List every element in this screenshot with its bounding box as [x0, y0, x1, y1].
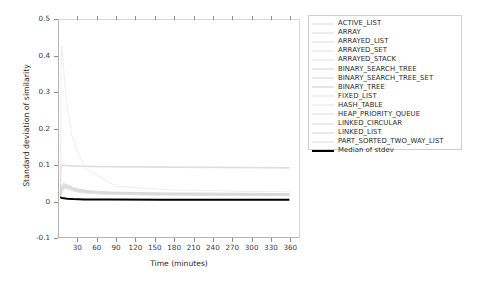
legend-line-swatch — [312, 65, 334, 74]
legend-item[interactable]: ACTIVE_LIST — [309, 19, 461, 28]
y-tick-label: 0.1 — [22, 161, 50, 169]
legend-item[interactable]: PART_SORTED_TWO_WAY_LIST — [309, 137, 461, 146]
legend-line-swatch — [312, 101, 334, 110]
legend-item[interactable]: BINARY_SEARCH_TREE_SET — [309, 74, 461, 83]
y-tick-label: 0 — [22, 198, 50, 206]
x-tick-mark — [77, 238, 78, 242]
legend-item[interactable]: Median of stdev — [309, 146, 461, 155]
series-line — [60, 198, 289, 200]
x-tick-mark — [252, 238, 253, 242]
x-tick-mark-top — [116, 16, 117, 20]
x-tick-mark-top — [77, 16, 78, 20]
legend-item[interactable]: BINARY_SEARCH_TREE — [309, 64, 461, 73]
legend-line-swatch — [312, 19, 334, 28]
y-tick-mark — [54, 238, 58, 239]
legend-item[interactable]: FIXED_LIST — [309, 92, 461, 101]
x-tick-mark-top — [290, 16, 291, 20]
legend-label: LINKED_CIRCULAR — [338, 119, 402, 128]
x-tick-mark-top — [252, 16, 253, 20]
legend-item[interactable]: ARRAYED_LIST — [309, 37, 461, 46]
legend-item[interactable]: ARRAY — [309, 28, 461, 37]
legend-line-swatch — [312, 83, 334, 92]
legend-line-swatch — [312, 74, 334, 83]
x-tick-label: 360 — [275, 244, 305, 252]
legend-line-swatch — [312, 28, 334, 37]
x-tick-mark-top — [232, 16, 233, 20]
x-tick-mark — [174, 238, 175, 242]
x-tick-mark-top — [155, 16, 156, 20]
legend-label: BINARY_SEARCH_TREE_SET — [338, 74, 433, 83]
x-tick-mark — [290, 238, 291, 242]
legend-item[interactable]: LINKED_CIRCULAR — [309, 119, 461, 128]
x-tick-mark-top — [135, 16, 136, 20]
y-tick-label: 0.3 — [22, 88, 50, 96]
legend-item[interactable]: HEAP_PRIORITY_QUEUE — [309, 110, 461, 119]
y-tick-label: 0.2 — [22, 125, 50, 133]
series-line — [60, 45, 289, 191]
y-tick-label: 0.5 — [22, 15, 50, 23]
legend-label: HEAP_PRIORITY_QUEUE — [338, 110, 420, 119]
legend-line-swatch — [312, 137, 334, 146]
legend-item[interactable]: HASH_TABLE — [309, 101, 461, 110]
x-tick-mark — [97, 238, 98, 242]
legend-label: FIXED_LIST — [338, 92, 377, 101]
legend-label: LINKED_LIST — [338, 128, 382, 137]
x-tick-mark-top — [213, 16, 214, 20]
x-tick-mark-top — [194, 16, 195, 20]
x-tick-mark — [213, 238, 214, 242]
x-tick-mark-top — [271, 16, 272, 20]
legend-line-swatch — [312, 146, 334, 155]
legend-line-swatch — [312, 119, 334, 128]
legend-item[interactable]: ARRAYED_SET — [309, 46, 461, 55]
legend-line-swatch — [312, 92, 334, 101]
x-tick-mark — [116, 238, 117, 242]
legend-line-swatch — [312, 37, 334, 46]
y-tick-label: -0.1 — [22, 234, 50, 242]
legend-label: ARRAY — [338, 28, 361, 37]
legend-label: ACTIVE_LIST — [338, 19, 381, 28]
legend-label: BINARY_SEARCH_TREE — [338, 65, 417, 74]
x-tick-mark — [155, 238, 156, 242]
x-tick-mark — [135, 238, 136, 242]
figure: Standard deviation of similarity 0.50.40… — [0, 0, 478, 292]
legend-line-swatch — [312, 55, 334, 64]
x-tick-mark-top — [174, 16, 175, 20]
plot-lines — [59, 20, 299, 237]
legend-item[interactable]: ARRAYED_STACK — [309, 55, 461, 64]
x-tick-mark — [271, 238, 272, 242]
legend-label: ARRAYED_LIST — [338, 37, 389, 46]
legend-line-swatch — [312, 128, 334, 137]
legend-item[interactable]: LINKED_LIST — [309, 128, 461, 137]
legend-label: ARRAYED_STACK — [338, 55, 396, 64]
x-axis-title: Time (minutes) — [58, 259, 300, 268]
legend-label: PART_SORTED_TWO_WAY_LIST — [338, 137, 444, 146]
legend-line-swatch — [312, 110, 334, 119]
legend-label: BINARY_TREE — [338, 83, 385, 92]
plot-area — [58, 19, 300, 238]
legend-box: ACTIVE_LISTARRAYARRAYED_LISTARRAYED_SETA… — [308, 15, 462, 150]
legend-item[interactable]: BINARY_TREE — [309, 83, 461, 92]
chart-figure-root: Standard deviation of similarity 0.50.40… — [0, 0, 478, 292]
legend-label: Median of stdev — [338, 146, 394, 155]
legend-label: ARRAYED_SET — [338, 46, 387, 55]
x-tick-mark — [232, 238, 233, 242]
y-tick-label: 0.4 — [22, 52, 50, 60]
legend-label: HASH_TABLE — [338, 101, 383, 110]
legend-line-swatch — [312, 46, 334, 55]
series-line — [60, 165, 289, 194]
x-tick-mark-top — [97, 16, 98, 20]
x-tick-mark — [194, 238, 195, 242]
